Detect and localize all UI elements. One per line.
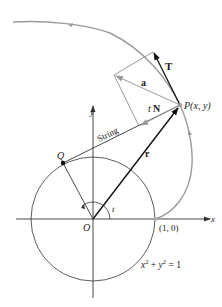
parallelogram-side [114,75,139,126]
involute-curve [13,21,192,219]
label-T: T [165,60,173,72]
point-Q [61,161,65,165]
radius-OQ [63,163,93,219]
involute-diagram: T a P(x, y) t N String y x Q r t O (1, 0… [0,0,222,307]
angle-arc-t [82,202,110,219]
point-P [178,103,182,107]
label-x-axis: x [210,214,215,224]
vector-tN [141,105,180,125]
label-r: r [145,148,150,159]
label-y-axis: y [89,107,94,117]
vector-r [93,108,178,219]
label-a: a [141,77,146,88]
parallelogram-construction [114,52,153,75]
label-t-angle: t [112,204,115,214]
label-tN-t: t [148,103,151,114]
equation-label: x2 + y2 = 1 [140,258,181,270]
vector-a [116,76,180,105]
label-Q: Q [57,150,65,161]
label-P: P(x, y) [183,100,211,112]
label-1-0: (1, 0) [159,223,179,233]
label-tN-N: N [153,103,161,114]
label-O: O [83,222,90,233]
point-1-0 [153,217,157,221]
